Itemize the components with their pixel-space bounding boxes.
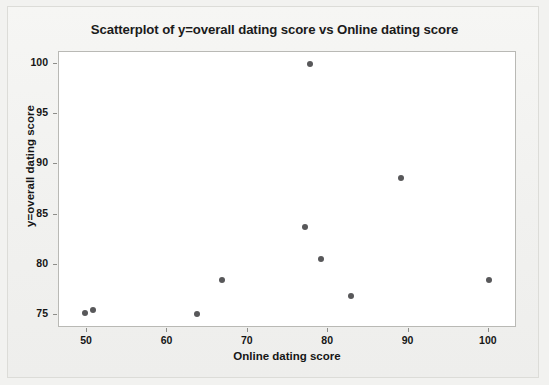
plot-area <box>58 51 516 327</box>
y-tick-label: 80 <box>14 257 48 269</box>
y-tick-label: 75 <box>14 307 48 319</box>
y-tick-mark <box>53 163 57 164</box>
x-tick-label: 50 <box>66 334 106 346</box>
x-tick-label: 60 <box>146 334 186 346</box>
x-tick-mark <box>166 328 167 332</box>
x-tick-mark <box>488 328 489 332</box>
x-tick-mark <box>408 328 409 332</box>
x-tick-label: 80 <box>307 334 347 346</box>
x-tick-mark <box>327 328 328 332</box>
x-tick-label: 100 <box>468 334 508 346</box>
scanned-page: Scatterplot of y=overall dating score vs… <box>0 0 549 385</box>
y-tick-mark <box>53 264 57 265</box>
y-tick-label: 85 <box>14 207 48 219</box>
y-tick-mark <box>53 214 57 215</box>
x-axis-label: Online dating score <box>58 350 516 362</box>
x-tick-mark <box>247 328 248 332</box>
chart-title: Scatterplot of y=overall dating score vs… <box>0 22 549 37</box>
x-tick-mark <box>86 328 87 332</box>
y-tick-label: 95 <box>14 106 48 118</box>
x-tick-label: 90 <box>388 334 428 346</box>
y-tick-label: 90 <box>14 156 48 168</box>
x-tick-label: 70 <box>227 334 267 346</box>
y-tick-label: 100 <box>14 56 48 68</box>
y-tick-mark <box>53 63 57 64</box>
y-tick-mark <box>53 314 57 315</box>
y-tick-mark <box>53 113 57 114</box>
